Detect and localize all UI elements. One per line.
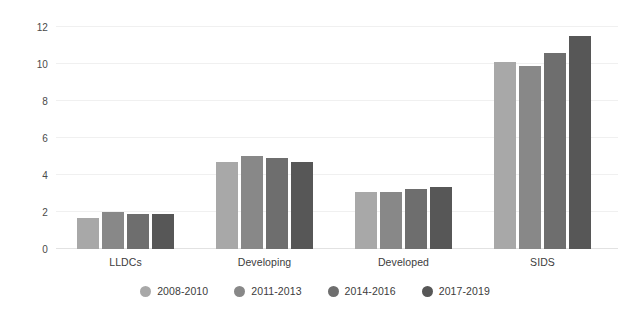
legend-item[interactable]: 2014-2016 bbox=[328, 285, 396, 297]
bar[interactable] bbox=[519, 66, 541, 249]
bar-group bbox=[56, 27, 195, 249]
bar[interactable] bbox=[405, 189, 427, 249]
bar[interactable] bbox=[380, 192, 402, 249]
legend-swatch-icon bbox=[234, 286, 245, 297]
bar[interactable] bbox=[77, 218, 99, 249]
bar[interactable] bbox=[102, 212, 124, 249]
legend-label: 2014-2016 bbox=[345, 285, 396, 297]
legend-item[interactable]: 2017-2019 bbox=[422, 285, 490, 297]
bar[interactable] bbox=[152, 214, 174, 249]
x-tick-label: Developed bbox=[334, 256, 473, 274]
legend-swatch-icon bbox=[422, 286, 433, 297]
y-tick-label: 8 bbox=[42, 96, 48, 107]
y-tick-label: 10 bbox=[37, 59, 48, 70]
bar[interactable] bbox=[216, 162, 238, 249]
y-tick-label: 2 bbox=[42, 207, 48, 218]
legend-item[interactable]: 2008-2010 bbox=[140, 285, 208, 297]
bar[interactable] bbox=[127, 214, 149, 249]
bar-group bbox=[473, 27, 612, 249]
plot-area bbox=[56, 27, 612, 249]
bar[interactable] bbox=[241, 156, 263, 249]
legend-swatch-icon bbox=[328, 286, 339, 297]
x-axis: LLDCsDevelopingDevelopedSIDS bbox=[56, 256, 612, 274]
bar[interactable] bbox=[266, 158, 288, 249]
legend-label: 2017-2019 bbox=[439, 285, 490, 297]
x-tick-label: LLDCs bbox=[56, 256, 195, 274]
y-tick-label: 6 bbox=[42, 133, 48, 144]
y-axis: 024681012 bbox=[0, 27, 48, 249]
bar[interactable] bbox=[291, 162, 313, 249]
legend-label: 2011-2013 bbox=[251, 285, 301, 297]
bar[interactable] bbox=[430, 187, 452, 249]
bar[interactable] bbox=[544, 53, 566, 249]
bar-chart: 024681012 LLDCsDevelopingDevelopedSIDS 2… bbox=[0, 0, 630, 312]
x-tick-label: Developing bbox=[195, 256, 334, 274]
legend-item[interactable]: 2011-2013 bbox=[234, 285, 301, 297]
legend-label: 2008-2010 bbox=[157, 285, 208, 297]
y-tick-label: 12 bbox=[37, 22, 48, 33]
y-tick-label: 4 bbox=[42, 170, 48, 181]
bar-group bbox=[334, 27, 473, 249]
bar[interactable] bbox=[355, 192, 377, 249]
legend-swatch-icon bbox=[140, 286, 151, 297]
bar[interactable] bbox=[494, 62, 516, 249]
x-tick-label: SIDS bbox=[473, 256, 612, 274]
y-tick-label: 0 bbox=[42, 244, 48, 255]
legend: 2008-20102011-20132014-20162017-2019 bbox=[0, 285, 630, 297]
bar-group bbox=[195, 27, 334, 249]
bar[interactable] bbox=[569, 36, 591, 249]
